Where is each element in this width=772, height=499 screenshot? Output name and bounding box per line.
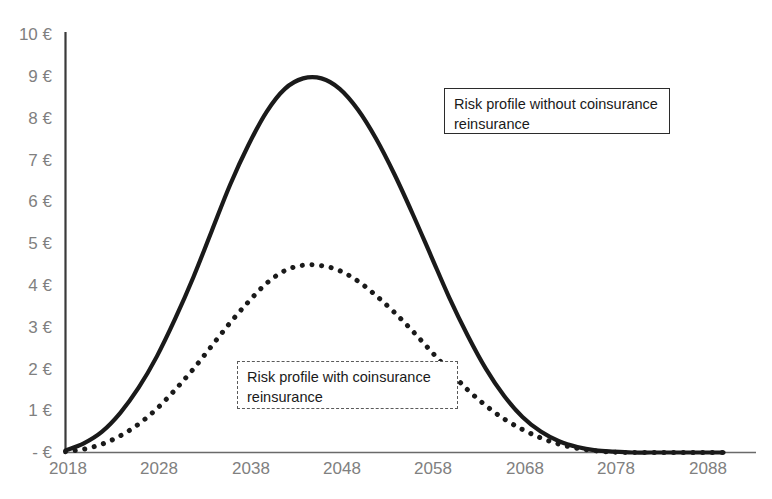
x-tick-label-2058: 2058 — [393, 460, 473, 477]
x-tick-label-2048: 2048 — [302, 460, 382, 477]
annotation-without-line-2: reinsurance — [454, 115, 660, 135]
x-tick-label-2068: 2068 — [485, 460, 565, 477]
chart-container: 10 € 9 € 8 € 7 € 6 € 5 € 4 € 3 € 2 € 1 €… — [0, 0, 772, 499]
series-line-with-coinsurance — [66, 265, 724, 453]
y-tick-label-3: 3 € — [2, 319, 52, 336]
annotation-without-coinsurance: Risk profile without coinsurance reinsur… — [444, 88, 670, 134]
x-tick-label-2018: 2018 — [28, 460, 108, 477]
x-tick-label-2078: 2078 — [576, 460, 656, 477]
y-tick-label-1: 1 € — [2, 402, 52, 419]
y-tick-label-10: 10 € — [2, 26, 52, 43]
y-tick-label-2: 2 € — [2, 361, 52, 378]
y-tick-label-9: 9 € — [2, 68, 52, 85]
annotation-with-line-1: Risk profile with coinsurance — [247, 368, 448, 388]
x-tick-label-2088: 2088 — [668, 460, 748, 477]
x-tick-label-2038: 2038 — [211, 460, 291, 477]
x-tick-label-2028: 2028 — [119, 460, 199, 477]
annotation-with-line-2: reinsurance — [247, 388, 448, 408]
annotation-without-line-1: Risk profile without coinsurance — [454, 95, 660, 115]
y-tick-label-8: 8 € — [2, 110, 52, 127]
y-tick-label-5: 5 € — [2, 235, 52, 252]
y-tick-label-4: 4 € — [2, 277, 52, 294]
y-tick-label-0: - € — [2, 444, 52, 461]
chart-plot-area — [0, 0, 772, 499]
y-tick-label-6: 6 € — [2, 193, 52, 210]
annotation-with-coinsurance: Risk profile with coinsurance reinsuranc… — [237, 361, 458, 409]
y-tick-label-7: 7 € — [2, 152, 52, 169]
